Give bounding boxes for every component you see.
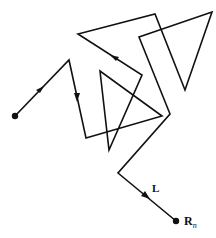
end-label-main: R: [184, 214, 193, 228]
walk-path: [15, 12, 212, 221]
random-walk-diagram: [0, 0, 216, 238]
segment-length-label: L: [152, 182, 159, 194]
end-label-subscript: n: [193, 221, 197, 230]
start-point: [12, 113, 18, 119]
end-point: [173, 218, 179, 224]
end-position-label: Rn: [184, 214, 197, 230]
arrow-icon: [74, 93, 80, 102]
